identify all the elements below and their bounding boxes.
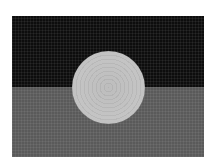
disc-concentric-rings — [72, 51, 145, 124]
flag-image — [12, 16, 204, 157]
center-disc — [72, 51, 145, 124]
